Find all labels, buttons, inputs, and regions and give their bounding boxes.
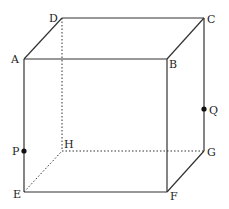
hidden-edge-EH	[24, 151, 62, 192]
edge-BC	[167, 18, 204, 59]
point-label-Q: Q	[209, 104, 218, 117]
vertex-label-H: H	[64, 138, 74, 151]
point-P-marker	[21, 148, 26, 153]
vertex-label-A: A	[10, 53, 20, 66]
vertex-label-D: D	[49, 12, 58, 25]
vertex-label-C: C	[207, 13, 215, 26]
vertex-label-E: E	[13, 188, 21, 201]
edge-FG	[167, 151, 204, 192]
vertex-label-B: B	[169, 58, 177, 71]
cube-diagram: A B C D E F G H P Q	[0, 0, 229, 209]
point-Q-marker	[201, 106, 206, 111]
vertex-label-F: F	[170, 190, 178, 203]
vertex-label-G: G	[207, 146, 216, 159]
point-label-P: P	[12, 145, 20, 158]
